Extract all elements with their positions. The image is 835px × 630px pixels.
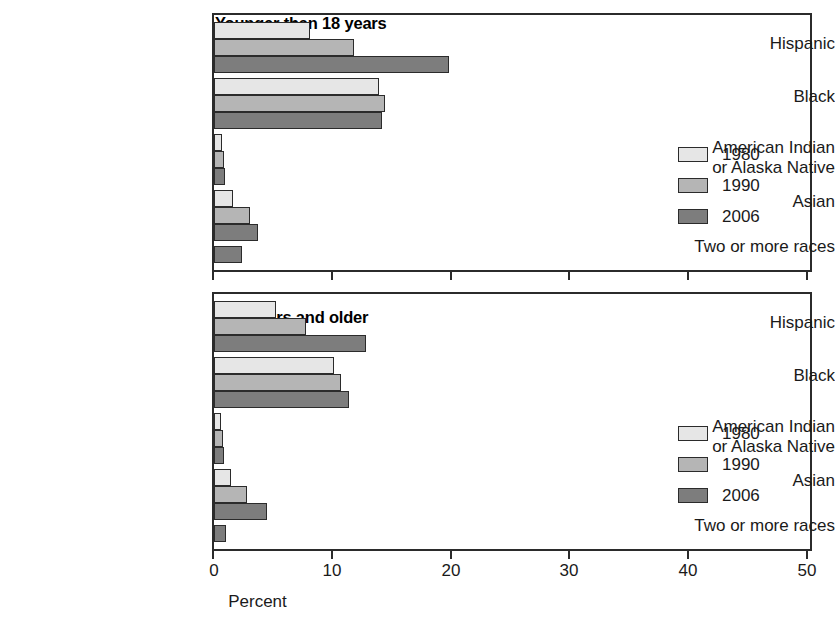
category-label-hispanic-top: Hispanic [630,34,835,54]
bar-bottom-asian-1980 [214,469,231,486]
legend-swatch-2006-icon [678,488,708,503]
legend-label-1990-top: 1990 [722,176,760,196]
bar-bottom-black-1990 [214,374,341,391]
bar-top-hispanic-1990 [214,39,354,56]
chart-figure: Younger than 18 years Hispanic Black Ame… [0,0,835,630]
xtick-label-40: 40 [679,561,698,581]
bar-top-black-1980 [214,78,379,95]
tick-bottom-10 [331,551,333,559]
tick-top-30 [568,272,570,280]
legend-swatch-2006-icon [678,209,708,224]
xtick-label-50: 50 [798,561,817,581]
bar-top-aian-2006 [214,168,225,185]
tick-bottom-50 [806,551,808,559]
category-label-black-top: Black [630,87,835,107]
bar-bottom-two-or-more-2006 [214,525,226,542]
tick-top-0 [212,272,214,280]
bar-bottom-hispanic-2006 [214,335,366,352]
bar-bottom-hispanic-1990 [214,318,306,335]
tick-top-40 [687,272,689,280]
bar-top-aian-1980 [214,134,222,151]
tick-top-10 [331,272,333,280]
legend-label-1990-bottom: 1990 [722,455,760,475]
legend-label-1980-bottom: 1980 [722,424,760,444]
legend-bottom: 1980 1990 2006 [678,418,760,511]
xtick-label-30: 30 [560,561,579,581]
bar-bottom-black-2006 [214,391,349,408]
tick-bottom-20 [450,551,452,559]
category-label-hispanic-bottom: Hispanic [630,313,835,333]
bar-top-hispanic-2006 [214,56,449,73]
bar-top-asian-2006 [214,224,258,241]
tick-bottom-40 [687,551,689,559]
bar-bottom-hispanic-1980 [214,301,276,318]
category-label-two-or-more-bottom: Two or more races [630,516,835,536]
legend-swatch-1980-icon [678,147,708,162]
legend-swatch-1990-icon [678,178,708,193]
x-axis-title: Percent [0,592,835,612]
bar-top-black-1990 [214,95,385,112]
xtick-label-10: 10 [323,561,342,581]
legend-row-1980-top: 1980 [678,139,760,170]
bar-top-asian-1980 [214,190,233,207]
tick-bottom-30 [568,551,570,559]
category-label-black-bottom: Black [630,366,835,386]
legend-row-2006-top: 2006 [678,201,760,232]
bar-top-black-2006 [214,112,382,129]
legend-top: 1980 1990 2006 [678,139,760,232]
bar-bottom-aian-2006 [214,447,224,464]
legend-row-2006-bottom: 2006 [678,480,760,511]
xtick-label-20: 20 [442,561,461,581]
legend-label-2006-top: 2006 [722,207,760,227]
bar-bottom-aian-1990 [214,430,223,447]
bar-top-hispanic-1980 [214,22,310,39]
bar-top-asian-1990 [214,207,250,224]
bar-top-aian-1990 [214,151,224,168]
tick-top-20 [450,272,452,280]
legend-row-1980-bottom: 1980 [678,418,760,449]
bar-top-two-or-more-2006 [214,246,242,263]
bar-bottom-asian-2006 [214,503,267,520]
bar-bottom-aian-1980 [214,413,221,430]
category-label-two-or-more-top: Two or more races [630,237,835,257]
legend-row-1990-bottom: 1990 [678,449,760,480]
bar-bottom-asian-1990 [214,486,247,503]
bar-bottom-black-1980 [214,357,334,374]
xtick-label-0: 0 [209,561,218,581]
x-axis-title-text: Percent [228,592,287,611]
legend-swatch-1990-icon [678,457,708,472]
legend-row-1990-top: 1990 [678,170,760,201]
legend-label-1980-top: 1980 [722,145,760,165]
tick-bottom-0 [212,551,214,559]
tick-top-50 [806,272,808,280]
legend-swatch-1980-icon [678,426,708,441]
legend-label-2006-bottom: 2006 [722,486,760,506]
